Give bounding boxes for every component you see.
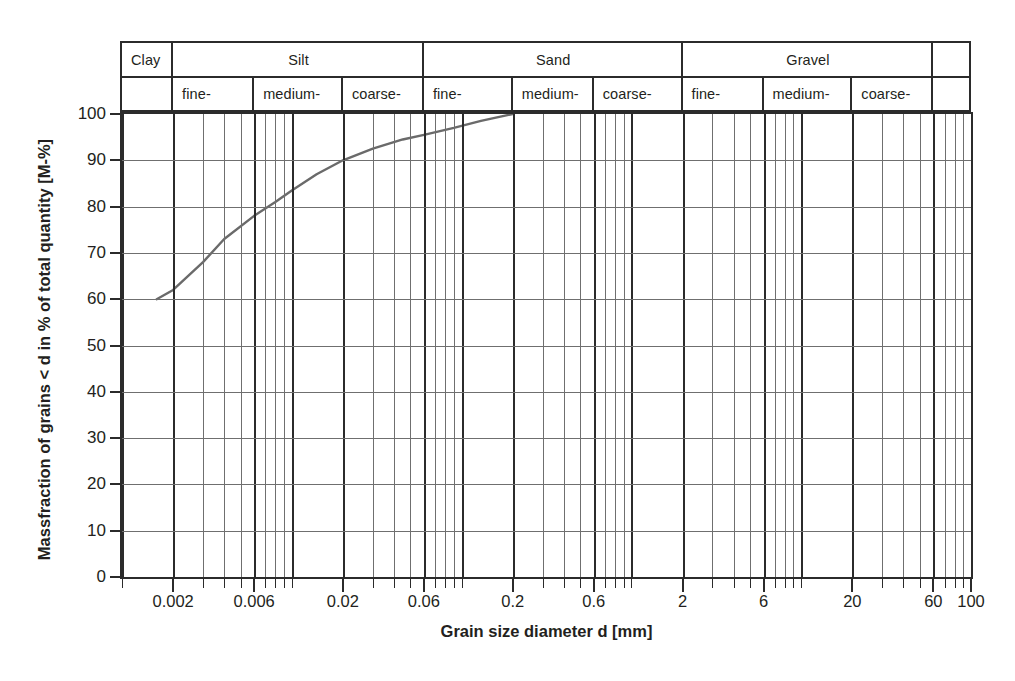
classification-cell-gravel: Gravel	[681, 41, 934, 76]
x-tick-mark	[373, 579, 374, 588]
classification-cell-label: coarse-	[352, 86, 401, 102]
grid-line-horizontal	[122, 484, 971, 485]
x-tick-mark-major	[682, 579, 684, 592]
x-tick-mark	[882, 579, 883, 588]
x-tick-mark-major	[172, 579, 174, 592]
classification-cell-label: fine-	[692, 86, 721, 102]
x-tick-mark	[963, 579, 964, 588]
x-tick-label: 0.06	[408, 592, 440, 611]
grain-size-distribution-figure: ClaySiltSandGravel fine-medium-coarse-fi…	[0, 0, 1015, 681]
y-tick-mark	[110, 206, 121, 208]
x-tick-mark-major	[423, 579, 425, 592]
x-tick-mark	[292, 579, 293, 588]
grid-line-horizontal	[122, 299, 971, 300]
y-tick-label: 10	[87, 521, 106, 541]
classification-cell-empty	[120, 76, 173, 112]
x-tick-mark	[543, 579, 544, 588]
classification-cell-label: Gravel	[786, 52, 829, 68]
x-tick-label: 100	[957, 592, 985, 611]
x-tick-mark-major	[851, 579, 853, 592]
classification-cell-fine: fine-	[422, 76, 513, 112]
x-tick-mark-major	[512, 579, 514, 592]
x-tick-mark	[410, 579, 411, 588]
grid-line-horizontal	[122, 531, 971, 532]
y-tick-label: 40	[87, 382, 106, 402]
x-tick-mark	[580, 579, 581, 588]
x-tick-mark	[945, 579, 946, 588]
x-tick-mark-major	[932, 579, 934, 592]
y-tick-mark	[110, 391, 121, 393]
x-tick-mark	[793, 579, 794, 588]
x-tick-mark	[955, 579, 956, 588]
x-tick-label: 0.6	[582, 592, 605, 611]
x-tick-mark	[920, 579, 921, 588]
x-tick-label: 2	[678, 592, 687, 611]
classification-cell-label: Silt	[288, 52, 309, 68]
x-tick-mark	[265, 579, 266, 588]
x-tick-mark	[734, 579, 735, 588]
x-tick-mark	[785, 579, 786, 588]
y-tick-mark	[110, 159, 121, 161]
y-tick-mark	[110, 483, 121, 485]
x-tick-mark	[750, 579, 751, 588]
classification-cell-label: medium-	[522, 86, 579, 102]
y-tick-label: 60	[87, 289, 106, 309]
y-axis-title: Massfraction of grains < d in % of total…	[35, 115, 54, 585]
classification-cell-medium: medium-	[252, 76, 343, 112]
classification-cell-fine: fine-	[171, 76, 254, 112]
x-tick-mark-major	[253, 579, 255, 592]
y-tick-label: 70	[87, 243, 106, 263]
x-tick-label: 0.006	[233, 592, 274, 611]
classification-cell-label: Clay	[131, 52, 160, 68]
classification-cell-label: medium-	[263, 86, 320, 102]
y-tick-mark	[110, 437, 121, 439]
y-tick-label: 90	[87, 150, 106, 170]
grid-line-horizontal	[122, 207, 971, 208]
classification-cell-label: coarse-	[603, 86, 652, 102]
x-tick-mark-major	[970, 579, 972, 592]
classification-cell-label: medium-	[773, 86, 830, 102]
classification-cell-coarse: coarse-	[341, 76, 424, 112]
y-tick-mark	[110, 113, 121, 115]
classification-cell-label: Sand	[536, 52, 570, 68]
classification-cell-medium: medium-	[511, 76, 594, 112]
x-tick-label: 6	[759, 592, 768, 611]
x-axis-title: Grain size diameter d [mm]	[120, 622, 973, 641]
y-tick-mark	[110, 530, 121, 532]
x-tick-mark	[284, 579, 285, 588]
classification-cell-fine: fine-	[681, 76, 764, 112]
x-tick-mark	[631, 579, 632, 588]
x-tick-mark	[394, 579, 395, 588]
x-tick-mark	[203, 579, 204, 588]
y-tick-mark	[110, 252, 121, 254]
grid-line-horizontal	[122, 438, 971, 439]
grid-line-horizontal	[122, 160, 971, 161]
x-tick-mark	[122, 579, 123, 588]
classification-cell-label: coarse-	[861, 86, 910, 102]
x-tick-mark	[275, 579, 276, 588]
x-tick-mark	[445, 579, 446, 588]
y-tick-label: 30	[87, 428, 106, 448]
x-tick-mark	[435, 579, 436, 588]
x-tick-mark	[775, 579, 776, 588]
y-tick-mark	[110, 345, 121, 347]
x-tick-mark-major	[763, 579, 765, 592]
classification-cell-medium: medium-	[762, 76, 853, 112]
x-tick-label: 60	[924, 592, 942, 611]
x-tick-mark-major	[342, 579, 344, 592]
y-tick-label: 100	[78, 104, 106, 124]
x-tick-mark	[241, 579, 242, 588]
y-tick-label: 80	[87, 197, 106, 217]
soil-classification-table: ClaySiltSandGravel fine-medium-coarse-fi…	[120, 41, 973, 112]
classification-cell-coarse: coarse-	[850, 76, 933, 112]
classification-cell-empty	[931, 41, 971, 76]
y-tick-label: 50	[87, 336, 106, 356]
classification-cell-empty	[931, 76, 971, 112]
x-tick-mark	[462, 579, 463, 588]
x-tick-mark	[224, 579, 225, 588]
y-tick-label: 0	[97, 567, 106, 587]
grid-line-horizontal	[122, 253, 971, 254]
x-tick-label: 0.002	[152, 592, 193, 611]
plot-area	[120, 112, 973, 579]
x-tick-mark	[903, 579, 904, 588]
